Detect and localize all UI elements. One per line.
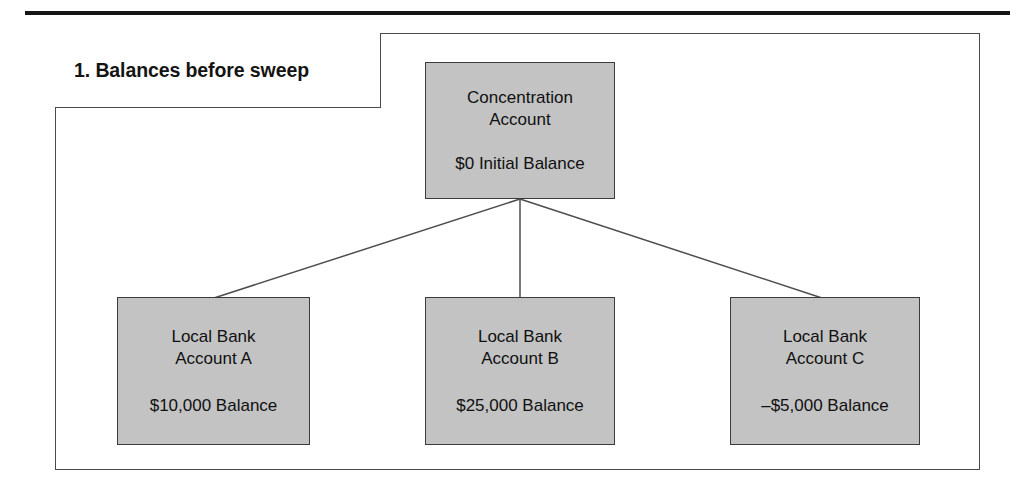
node-local-bank-account-c: Local Bank Account C –$5,000 Balance — [730, 297, 920, 445]
node-local-bank-account-a-title: Local Bank Account A — [171, 326, 255, 371]
connector-root-to-account-c — [520, 199, 822, 298]
node-concentration-account-title: Concentration Account — [467, 87, 573, 132]
connector-root-to-account-a — [214, 199, 520, 298]
node-local-bank-account-c-balance: –$5,000 Balance — [761, 396, 889, 416]
step-label-text: 1. Balances before sweep — [55, 59, 309, 82]
node-local-bank-account-c-title: Local Bank Account C — [783, 326, 867, 371]
node-local-bank-account-b-balance: $25,000 Balance — [456, 396, 584, 416]
node-local-bank-account-b-title: Local Bank Account B — [478, 326, 562, 371]
node-local-bank-account-a: Local Bank Account A $10,000 Balance — [117, 297, 310, 445]
node-concentration-account-balance: $0 Initial Balance — [455, 154, 584, 174]
step-label-box: 1. Balances before sweep — [55, 33, 381, 108]
node-local-bank-account-b: Local Bank Account B $25,000 Balance — [425, 297, 615, 445]
figure-page: Concentration Account $0 Initial Balance… — [0, 0, 1031, 492]
node-concentration-account: Concentration Account $0 Initial Balance — [425, 62, 615, 199]
node-local-bank-account-a-balance: $10,000 Balance — [150, 396, 278, 416]
